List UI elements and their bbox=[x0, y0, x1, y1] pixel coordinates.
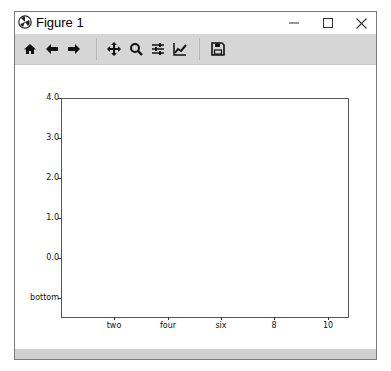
y-tick-mark bbox=[58, 138, 61, 139]
y-tick-label: 4.0 bbox=[19, 93, 59, 102]
minimize-icon bbox=[289, 18, 299, 28]
y-tick-mark bbox=[58, 178, 61, 179]
floppy-disk-icon bbox=[211, 42, 225, 56]
line-chart-icon bbox=[173, 42, 187, 56]
x-tick-mark bbox=[328, 317, 329, 320]
arrow-left-icon bbox=[45, 42, 59, 56]
save-button[interactable] bbox=[209, 40, 227, 58]
x-tick-label: six bbox=[206, 321, 236, 330]
y-tick-mark bbox=[58, 98, 61, 99]
matplotlib-logo-icon bbox=[18, 15, 32, 29]
status-bar bbox=[15, 349, 376, 359]
magnifier-icon bbox=[129, 42, 143, 56]
x-tick-label: 8 bbox=[259, 321, 289, 330]
back-button[interactable] bbox=[43, 40, 61, 58]
plot-axes[interactable] bbox=[61, 98, 349, 318]
navigation-toolbar bbox=[15, 34, 376, 65]
x-tick-label: 10 bbox=[313, 321, 343, 330]
x-tick-mark bbox=[114, 317, 115, 320]
home-icon bbox=[23, 42, 37, 56]
toolbar-separator bbox=[96, 38, 97, 60]
y-tick-mark bbox=[58, 258, 61, 259]
x-tick-mark bbox=[274, 317, 275, 320]
figure-window: Figure 1 bbox=[14, 11, 377, 360]
close-icon bbox=[356, 18, 367, 29]
sliders-icon bbox=[151, 42, 165, 56]
x-tick-mark bbox=[168, 317, 169, 320]
y-tick-label: bottom bbox=[19, 293, 59, 302]
zoom-button[interactable] bbox=[127, 40, 145, 58]
maximize-icon bbox=[323, 18, 333, 28]
y-tick-label: 2.0 bbox=[19, 173, 59, 182]
y-tick-mark bbox=[58, 298, 61, 299]
y-tick-label: 3.0 bbox=[19, 133, 59, 142]
configure-subplots-button[interactable] bbox=[149, 40, 167, 58]
move-icon bbox=[107, 42, 121, 56]
minimize-button[interactable] bbox=[277, 12, 311, 34]
arrow-right-icon bbox=[67, 42, 81, 56]
close-button[interactable] bbox=[344, 12, 378, 34]
edit-axis-button[interactable] bbox=[171, 40, 189, 58]
y-tick-label: 1.0 bbox=[19, 213, 59, 222]
forward-button[interactable] bbox=[65, 40, 83, 58]
title-bar[interactable]: Figure 1 bbox=[15, 12, 376, 34]
maximize-button[interactable] bbox=[311, 12, 345, 34]
toolbar-separator bbox=[199, 38, 200, 60]
x-tick-mark bbox=[221, 317, 222, 320]
pan-button[interactable] bbox=[105, 40, 123, 58]
x-tick-label: four bbox=[153, 321, 183, 330]
y-tick-mark bbox=[58, 218, 61, 219]
x-tick-label: two bbox=[99, 321, 129, 330]
home-button[interactable] bbox=[21, 40, 39, 58]
y-tick-label: 0.0 bbox=[19, 253, 59, 262]
window-title: Figure 1 bbox=[36, 15, 84, 30]
